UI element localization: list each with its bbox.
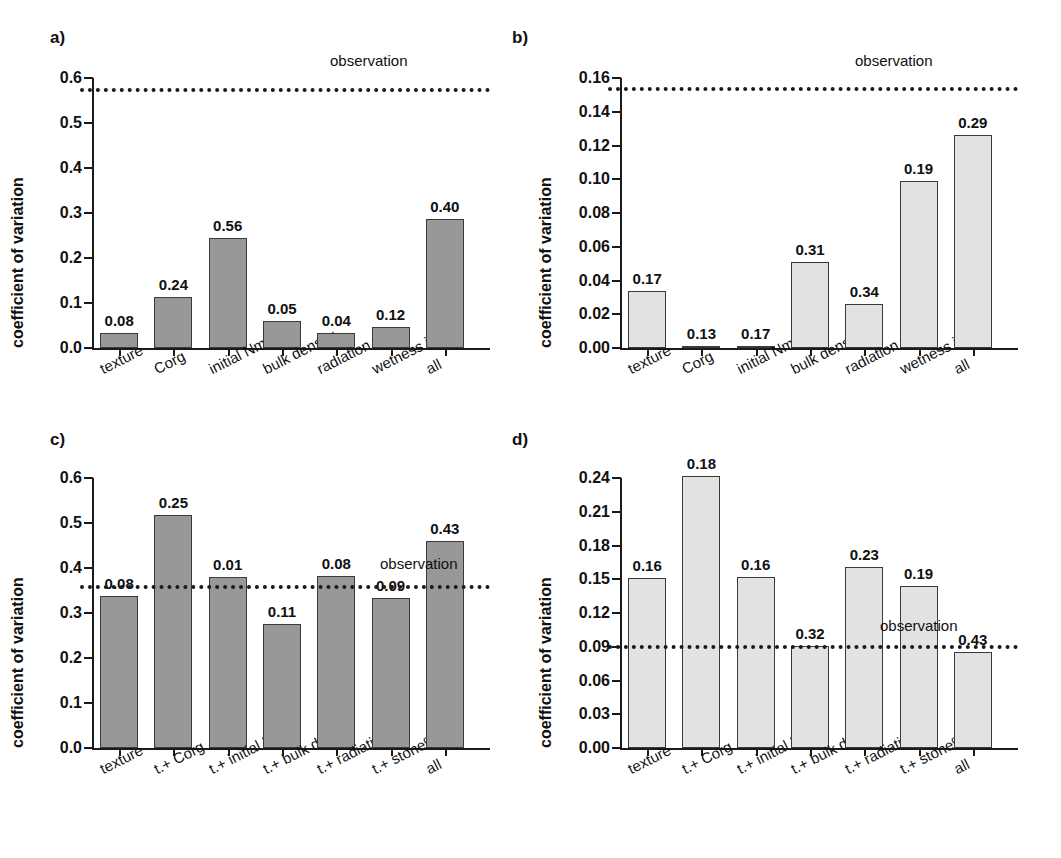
x-tick-mark-d-6 bbox=[973, 750, 975, 756]
y-tick-label-d-6: 0.18 bbox=[552, 537, 610, 555]
bar-d-5 bbox=[900, 586, 938, 748]
bar-d-1 bbox=[682, 476, 720, 748]
y-tick-label-d-7: 0.21 bbox=[552, 503, 610, 521]
observation-label-d: observation bbox=[880, 617, 958, 634]
y-tick-mark-d-2 bbox=[612, 680, 621, 682]
bar-d-4 bbox=[845, 567, 883, 748]
y-tick-label-d-3: 0.09 bbox=[552, 638, 610, 656]
y-tick-label-d-4: 0.12 bbox=[552, 604, 610, 622]
y-tick-mark-d-4 bbox=[612, 612, 621, 614]
bar-d-6 bbox=[954, 652, 992, 748]
y-tick-label-d-1: 0.03 bbox=[552, 705, 610, 723]
figure-canvas: a)coefficient of variation0.00.10.20.30.… bbox=[0, 0, 1061, 858]
x-category-label-d-6: all bbox=[951, 755, 972, 777]
y-tick-mark-d-7 bbox=[612, 511, 621, 513]
bar-d-2 bbox=[737, 577, 775, 748]
y-tick-label-d-8: 0.24 bbox=[552, 469, 610, 487]
chart-panel-d: d)coefficient of variation0.000.030.060.… bbox=[0, 0, 1061, 858]
bar-value-d-5: 0.19 bbox=[904, 565, 933, 582]
bar-value-d-3: 0.32 bbox=[795, 625, 824, 642]
y-tick-mark-d-0 bbox=[612, 747, 621, 749]
y-tick-mark-d-6 bbox=[612, 545, 621, 547]
bar-d-3 bbox=[791, 646, 829, 748]
panel-letter-d: d) bbox=[512, 430, 528, 450]
bar-value-d-0: 0.16 bbox=[633, 557, 662, 574]
y-tick-mark-d-1 bbox=[612, 713, 621, 715]
bar-value-d-4: 0.23 bbox=[850, 546, 879, 563]
y-tick-mark-d-8 bbox=[612, 477, 621, 479]
y-tick-label-d-0: 0.00 bbox=[552, 739, 610, 757]
y-tick-label-d-2: 0.06 bbox=[552, 672, 610, 690]
bar-value-d-2: 0.16 bbox=[741, 556, 770, 573]
bar-value-d-1: 0.18 bbox=[687, 455, 716, 472]
y-tick-mark-d-5 bbox=[612, 578, 621, 580]
bar-d-0 bbox=[628, 578, 666, 748]
observation-line-d bbox=[608, 645, 1018, 649]
y-tick-label-d-5: 0.15 bbox=[552, 570, 610, 588]
